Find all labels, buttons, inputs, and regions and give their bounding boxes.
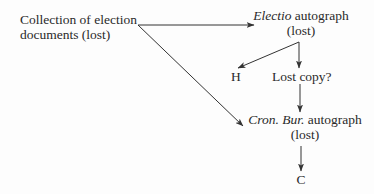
edge-electio-to-h [238,42,299,68]
node-electio-title-rest: autograph [291,8,348,23]
node-cron-bur-title-rest: autograph [304,112,361,127]
edge-collection-to-cron-bur [138,25,243,126]
node-electio-line2: (lost) [253,23,349,38]
stemma-diagram: Collection of election documents (lost) … [0,0,374,194]
node-collection: Collection of election documents (lost) [20,12,137,42]
node-cron-bur-line2: (lost) [248,127,362,142]
node-electio: Electio autograph (lost) [253,8,349,38]
node-cron-bur: Cron. Bur. autograph (lost) [248,112,362,142]
node-cron-bur-title-italic: Cron. Bur. [248,112,304,127]
node-cron-bur-title: Cron. Bur. autograph [248,112,362,127]
node-h: H [231,69,241,84]
node-electio-title: Electio autograph [253,8,349,23]
node-c: C [296,172,305,187]
node-electio-title-italic: Electio [253,8,291,23]
node-lost-copy: Lost copy? [272,69,332,84]
node-collection-line2: documents (lost) [20,27,137,42]
node-collection-line1: Collection of election [20,12,137,27]
